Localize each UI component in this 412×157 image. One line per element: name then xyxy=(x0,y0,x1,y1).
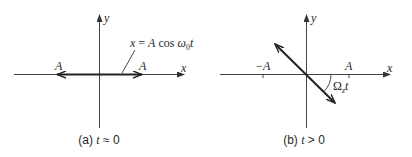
formula-time: t xyxy=(190,36,194,50)
rotation-angle-arc xyxy=(324,75,331,92)
formula-omega: ω xyxy=(177,36,185,50)
x-axis-label: x xyxy=(386,61,393,75)
y-axis-label: y xyxy=(310,11,317,25)
pos-amplitude-label: A xyxy=(344,59,353,73)
panel-a: y x A A x = A cos ω0t (a) t ≈ 0 xyxy=(14,11,194,147)
angle-time: t xyxy=(345,79,349,93)
y-axis-label: y xyxy=(103,11,110,25)
caption-prefix: (b) xyxy=(283,133,301,147)
amplitude-left-label: A xyxy=(54,59,63,73)
neg-amplitude-label: −A xyxy=(255,59,271,73)
x-axis-label: x xyxy=(180,61,187,75)
position-formula: x = A cos ω0t xyxy=(129,36,194,52)
formula-leader-line xyxy=(122,50,135,73)
panel-a-caption: (a) t ≈ 0 xyxy=(78,133,120,147)
caption-prefix: (a) xyxy=(78,133,96,147)
rotated-double-arrow xyxy=(275,44,335,103)
caption-relation: > 0 xyxy=(304,133,325,147)
panel-b: y x −A A Ωzt (b) t > 0 xyxy=(220,11,393,147)
angle-omega: Ω xyxy=(333,79,342,93)
formula-cos: cos xyxy=(155,36,177,50)
rotation-angle-label: Ωzt xyxy=(333,79,349,95)
panel-b-caption: (b) t > 0 xyxy=(283,133,325,147)
caption-relation: ≈ 0 xyxy=(100,133,120,147)
amplitude-right-label: A xyxy=(138,59,147,73)
formula-equals: = xyxy=(135,36,148,50)
oscillation-diagram: y x A A x = A cos ω0t (a) t ≈ 0 y x −A A xyxy=(0,0,412,157)
